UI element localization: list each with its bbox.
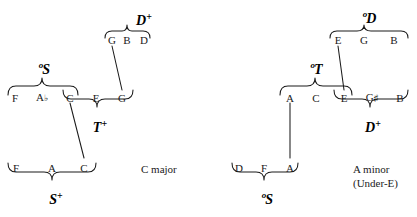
caption-right-key-line1: A minor [353, 162, 389, 176]
note-right-top-3: B [390, 35, 397, 46]
label-left-T-plus: T+ [93, 117, 107, 136]
left-connector-topG-to-midG [112, 46, 122, 90]
label-left-S-plus: S+ [49, 189, 63, 208]
label-right-oD-main: D [366, 11, 376, 26]
sharp-accidental-icon: ♯ [374, 93, 379, 103]
label-right-oT: oT [309, 59, 322, 78]
label-left-T-plus-sup: + [101, 118, 107, 129]
label-right-D-plus: D+ [365, 117, 381, 136]
label-left-oS-prefix: o [39, 60, 44, 70]
note-right-bot-2: F [261, 163, 267, 174]
label-left-T-plus-main: T [93, 120, 102, 135]
caption-left-key: C major [141, 162, 177, 176]
note-right-mid-4-letter: G [366, 91, 374, 103]
note-left-mid-5: G [118, 93, 126, 104]
note-right-bot-3: A [286, 163, 294, 174]
note-left-mid-4: E [93, 93, 100, 104]
note-left-mid-2-letter: A [36, 91, 44, 103]
note-right-mid-3: E [341, 93, 348, 104]
label-left-D-plus-main: D [136, 13, 146, 28]
flat-accidental-icon: ♭ [44, 93, 48, 103]
note-right-mid-2: C [312, 93, 319, 104]
label-left-D-plus-sup: + [146, 11, 152, 22]
note-left-top-1: G [108, 35, 116, 46]
note-right-mid-1: A [286, 93, 294, 104]
note-right-mid-4: G♯ [366, 92, 378, 104]
note-right-top-2: G [360, 35, 368, 46]
note-right-top-1: E [335, 35, 342, 46]
label-right-oS: oS [261, 189, 273, 208]
note-left-top-3: D [140, 35, 148, 46]
label-left-oS: oS [38, 59, 50, 78]
label-left-S-plus-sup: + [57, 190, 63, 201]
caption-right-key-line2: (Under-E) [353, 176, 398, 190]
label-right-D-plus-sup: + [375, 118, 381, 129]
label-left-S-plus-main: S [49, 192, 57, 207]
right-connector-topE-to-midE [338, 46, 344, 90]
left-connector-midC-to-botC [70, 103, 84, 158]
label-right-oS-prefix: o [262, 190, 267, 200]
harmony-function-diagram: G B D F A♭ C E G F A C D+ oS T+ S+ E G B… [0, 0, 417, 217]
note-right-mid-5: B [396, 93, 403, 104]
note-right-bot-1: D [235, 163, 243, 174]
note-left-bot-3: C [80, 163, 87, 174]
note-left-bot-1: F [13, 163, 19, 174]
label-left-D-plus: D+ [136, 10, 152, 29]
label-right-D-plus-main: D [365, 120, 375, 135]
label-right-oT-prefix: o [310, 60, 315, 70]
note-left-bot-2: A [48, 163, 56, 174]
note-left-mid-1: F [12, 93, 18, 104]
note-left-mid-2: A♭ [36, 92, 48, 104]
label-right-oD-prefix: o [363, 9, 368, 19]
note-left-mid-3: C [66, 93, 73, 104]
label-right-oD: oD [362, 8, 377, 27]
note-left-top-2: B [123, 35, 130, 46]
